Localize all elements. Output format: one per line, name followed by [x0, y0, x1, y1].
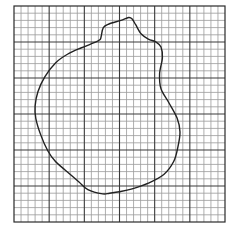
closed-outline-shape: [35, 17, 180, 194]
grid-major-lines: [14, 6, 225, 222]
graph-paper-diagram: [0, 0, 236, 232]
